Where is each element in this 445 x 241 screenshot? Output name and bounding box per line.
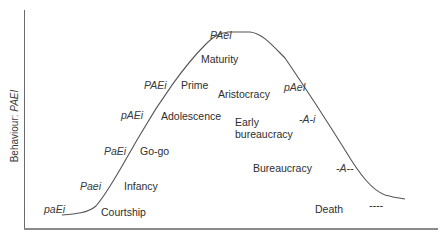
code-prime: PAEi — [144, 79, 167, 91]
stage-bureaucracy: Bureaucracy — [253, 162, 312, 174]
code-adolescence: pAEi — [121, 109, 143, 121]
code-infancy: Paei — [80, 180, 101, 192]
stage-early-bureaucracy-line2: bureaucracy — [235, 128, 293, 140]
stage-early-bureaucracy-line1: Early — [235, 116, 259, 128]
code-maturity: PAeI — [210, 29, 232, 41]
code-early-bureaucracy: -A-i — [299, 113, 315, 125]
stage-maturity: Maturity — [201, 53, 238, 65]
code-courtship: paEi — [44, 203, 65, 215]
code-aristocracy: pAeI — [284, 81, 306, 93]
stage-courtship: Courtship — [101, 206, 146, 218]
stage-gogo: Go-go — [140, 145, 169, 157]
lifecycle-diagram: Behaviour: PAEI paEi Courtship Paei Infa… — [0, 0, 445, 241]
code-death: ---- — [369, 199, 383, 211]
code-gogo: PaEi — [104, 145, 126, 157]
stage-aristocracy: Aristocracy — [218, 88, 270, 100]
stage-adolescence: Adolescence — [161, 110, 221, 122]
code-bureaucracy: -A-- — [336, 162, 354, 174]
stage-infancy: Infancy — [124, 180, 158, 192]
stage-death: Death — [315, 203, 343, 215]
stage-prime: Prime — [181, 79, 208, 91]
